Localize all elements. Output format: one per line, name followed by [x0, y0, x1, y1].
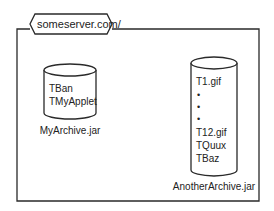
archive-item: T1.gif: [196, 77, 221, 87]
archive-item-ellipsis: •: [197, 103, 200, 112]
archive-name: MyArchive.jar: [40, 126, 101, 136]
archive-name: AnotherArchive.jar: [173, 182, 255, 192]
server-label: someserver.com/: [37, 19, 121, 30]
archive-item: TBaz: [196, 154, 219, 164]
archive-item: TMyApplet: [49, 97, 97, 107]
archive-item-ellipsis: •: [197, 91, 200, 100]
archive-item: T12.gif: [196, 128, 227, 138]
archive-item-ellipsis: •: [197, 115, 200, 124]
archive-item: TBan: [49, 84, 73, 94]
diagram-canvas: [0, 0, 274, 211]
archive-item: TQuux: [196, 141, 226, 151]
